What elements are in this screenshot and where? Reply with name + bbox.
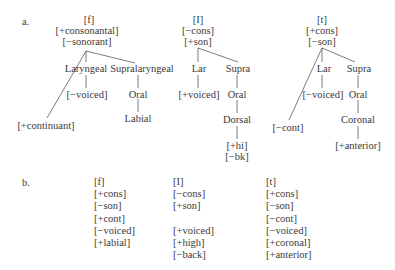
- feature-row: [I]: [173, 176, 214, 188]
- feature-row: [−voiced]: [266, 225, 312, 237]
- feature-row: [+son]: [173, 200, 214, 212]
- voicing-feature: [−voiced]: [67, 89, 108, 101]
- place-node: Dorsal: [223, 114, 251, 126]
- feature-column-f: [f] [+cons] [−son] [+cont] [−voiced] [+l…: [94, 176, 135, 249]
- feature-row: [−voiced]: [94, 225, 135, 237]
- place-node: Labial: [125, 113, 152, 125]
- part-b-label: b.: [22, 177, 30, 189]
- branch-root-supra: [198, 48, 238, 62]
- laryngeal-node: Lar: [317, 63, 332, 75]
- root-feature: [−son]: [308, 36, 336, 48]
- oral-node: Oral: [129, 89, 148, 101]
- oral-node: Oral: [349, 89, 368, 101]
- feature-row: [+high]: [173, 237, 214, 249]
- root-feature: [−sonorant]: [62, 36, 111, 48]
- feature-row: [t]: [266, 176, 312, 188]
- voicing-feature: [+voiced]: [179, 89, 220, 101]
- feature-row: [−son]: [266, 200, 312, 212]
- laryngeal-node: Lar: [192, 63, 207, 75]
- root-feature: [+son]: [184, 36, 212, 48]
- branch-root-supra: [322, 48, 355, 62]
- feature-row: [+cont]: [94, 213, 135, 225]
- feature-row: [173, 213, 214, 225]
- supralaryngeal-node: Supralaryngeal: [110, 63, 174, 75]
- laryngeal-node: Laryngeal: [65, 63, 108, 75]
- branch-root-supralaryngeal: [86, 51, 135, 63]
- feature-column-t: [t] [+cons] [−son] [−cont] [−voiced] [+c…: [266, 176, 312, 261]
- voicing-feature: [−voiced]: [303, 89, 344, 101]
- place-feature: [+anterior]: [335, 140, 381, 152]
- part-a-label: a.: [22, 16, 29, 28]
- feature-row: [+coronal]: [266, 237, 312, 249]
- feature-row: [+cons]: [266, 188, 312, 200]
- feature-row: [−back]: [173, 249, 214, 261]
- feature-row: [+labial]: [94, 237, 135, 249]
- continuant-feature: [−cont]: [273, 122, 304, 134]
- feature-row: [−cont]: [266, 213, 312, 225]
- branch-root-continuant: [47, 51, 86, 118]
- branch-root-cont: [289, 48, 322, 120]
- feature-row: [−cons]: [173, 188, 214, 200]
- feature-column-I: [I] [−cons] [+son] [+voiced] [+high] [−b…: [173, 176, 214, 261]
- supralaryngeal-node: Supra: [226, 63, 251, 75]
- place-node: Coronal: [341, 114, 375, 126]
- continuant-feature: [+continuant]: [17, 120, 74, 132]
- feature-row: [+voiced]: [173, 225, 214, 237]
- feature-row: [f]: [94, 176, 135, 188]
- place-feature: [−bk]: [225, 151, 248, 163]
- feature-row: [+cons]: [94, 188, 135, 200]
- oral-node: Oral: [228, 89, 247, 101]
- feature-row: [+anterior]: [266, 249, 312, 261]
- feature-row: [−son]: [94, 200, 135, 212]
- supralaryngeal-node: Supra: [347, 63, 372, 75]
